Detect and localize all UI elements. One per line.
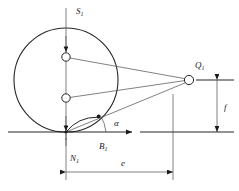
ray-tangent-to-q [66,83,185,132]
label-s1-sub: 1 [81,11,84,17]
angle-vertex-dot [97,115,101,119]
label-q1: Q1 [195,60,205,71]
label-q1-sub: 1 [202,65,205,71]
label-b1: B1 [99,141,108,152]
diagram-canvas: S1 Q1 α B1 N1 e f [0,0,239,191]
label-e: e [121,158,125,168]
ray-lower-node-to-q [70,81,184,98]
node-upper-circle [62,53,70,61]
label-n1: N1 [69,153,79,164]
label-alpha: α [114,118,119,128]
label-f: f [224,102,228,112]
node-q1-circle [184,75,193,84]
node-lower-circle [62,94,70,102]
label-s1: S1 [76,6,84,17]
label-n1-sub: 1 [76,158,79,164]
ray-upper-node-to-q [70,58,185,79]
label-b1-sub: 1 [105,146,108,152]
diagram-figure: S1 Q1 α B1 N1 e f [0,0,239,191]
